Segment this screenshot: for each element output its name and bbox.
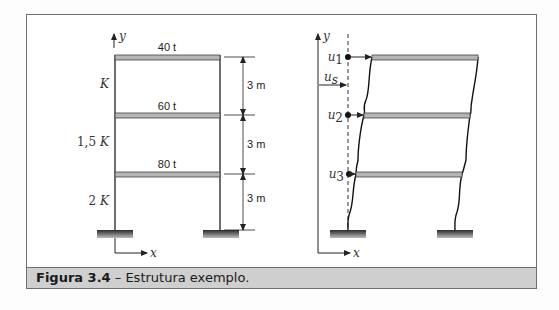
deformed-left-column	[348, 57, 372, 230]
fixed-support-right	[437, 230, 473, 238]
label-u2: u2	[328, 108, 343, 125]
fixed-support-left	[330, 230, 366, 238]
stiffness-label-1: K	[99, 77, 110, 91]
caption-label: Figura 3.4	[36, 270, 111, 285]
label-u1: u1	[328, 50, 343, 67]
label-u3: u3	[329, 167, 344, 184]
x-axis-arrow	[115, 238, 147, 253]
fixed-support-left	[97, 230, 133, 238]
beam-floor-1	[372, 55, 478, 60]
y-axis-label: y	[118, 29, 126, 43]
beam-floor-3	[115, 172, 220, 177]
stiffness-label-3: 2K	[88, 194, 110, 208]
deformed-right-column	[455, 57, 478, 230]
figure-caption: Figura 3.4 – Estrutura exemplo.	[26, 267, 537, 289]
caption-separator: –	[111, 270, 126, 285]
beam-floor-2	[115, 113, 220, 118]
left-frame: y 40 t 60 t 80 t K 1,5K 2K x	[77, 29, 265, 260]
structure-diagram: y 40 t 60 t 80 t K 1,5K 2K x	[0, 0, 559, 310]
caption-description: Estrutura exemplo.	[125, 270, 249, 285]
height-label-2: 3 m	[247, 138, 265, 150]
x-axis-label: x	[353, 246, 360, 260]
mass-label-1: 40 t	[158, 41, 176, 53]
beam-floor-2	[364, 113, 470, 118]
stiffness-label-2: 1,5K	[77, 135, 110, 149]
beam-floor-3	[356, 172, 462, 177]
mass-label-3: 80 t	[158, 158, 176, 170]
x-axis-label: x	[150, 246, 157, 260]
fixed-support-right	[203, 230, 239, 238]
beam-floor-1	[115, 55, 220, 60]
y-axis-label: y	[322, 29, 330, 43]
label-us: us	[324, 70, 338, 87]
right-frame-deformed: y x u1 us u2 u3	[318, 29, 478, 260]
mass-label-2: 60 t	[158, 100, 176, 112]
caption-text: Figura 3.4 – Estrutura exemplo.	[36, 270, 249, 285]
height-label-1: 3 m	[247, 79, 265, 91]
height-label-3: 3 m	[247, 192, 265, 204]
